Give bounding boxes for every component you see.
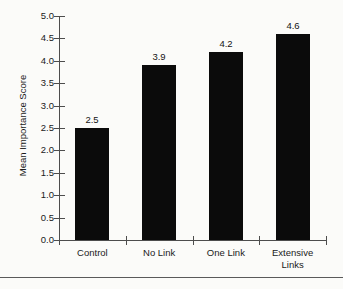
bottom-divider-rule	[0, 277, 343, 278]
x-axis-category-label-line: Extensive	[259, 247, 326, 259]
bar-value-label: 4.6	[262, 21, 324, 31]
bars-layer: 2.53.94.24.6	[0, 0, 343, 241]
x-axis-tick	[193, 236, 194, 245]
bar	[75, 17, 109, 240]
x-axis-category-label: No Link	[126, 247, 193, 259]
x-axis-category-label: One Link	[193, 247, 260, 259]
bar	[276, 17, 310, 240]
bar-rect	[209, 52, 243, 240]
x-axis-tick	[326, 236, 327, 245]
bar-rect	[142, 65, 176, 240]
x-axis-tick	[59, 236, 60, 245]
x-axis-tick	[126, 236, 127, 245]
bar-value-label: 2.5	[61, 115, 123, 125]
bar-value-label: 3.9	[128, 52, 190, 62]
chart-figure: Mean Importance Score 5.04.54.03.53.02.5…	[0, 0, 343, 289]
x-axis-tick	[259, 236, 260, 245]
bar-rect	[75, 128, 109, 240]
x-axis-category-label-line: Links	[259, 259, 326, 271]
x-axis-category-label: Control	[59, 247, 126, 259]
x-axis-category-label-line: Control	[59, 247, 126, 259]
x-axis-category-label-line: One Link	[193, 247, 260, 259]
x-axis-category-label-line: No Link	[126, 247, 193, 259]
x-axis-category-label: ExtensiveLinks	[259, 247, 326, 270]
bar-rect	[276, 34, 310, 240]
bar	[209, 17, 243, 240]
bar-value-label: 4.2	[195, 39, 257, 49]
